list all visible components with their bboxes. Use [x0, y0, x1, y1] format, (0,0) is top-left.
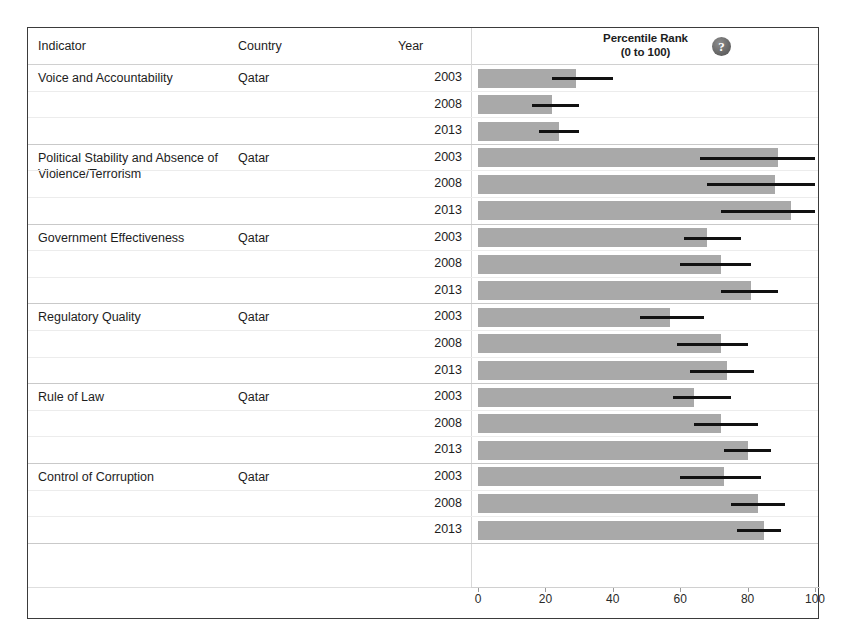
axis-tick-label: 20: [539, 592, 552, 606]
bar-cell: [471, 384, 820, 411]
bar-cell: [471, 145, 820, 172]
confidence-interval-bar: [731, 503, 785, 506]
bar-cell: [471, 251, 820, 278]
axis-tick-label: 100: [805, 592, 825, 606]
axis-tick-label: 80: [741, 592, 754, 606]
confidence-interval-bar: [680, 476, 761, 479]
confidence-interval-bar: [640, 316, 704, 319]
bar-cell: [471, 92, 820, 119]
bar-cell: [471, 304, 820, 331]
table-row: 2008: [28, 331, 818, 358]
year-label: 2008: [398, 256, 462, 270]
column-header-year: Year: [398, 39, 470, 53]
bar-cell: [471, 118, 820, 145]
chart-title-line-2: (0 to 100): [471, 45, 820, 59]
help-icon[interactable]: ?: [712, 37, 731, 56]
confidence-interval-bar: [680, 263, 751, 266]
group-separator: [28, 543, 818, 544]
confidence-interval-bar: [694, 423, 758, 426]
confidence-interval-bar: [721, 290, 778, 293]
indicator-group: Control of CorruptionQatar200320082013: [28, 464, 818, 544]
table-row: 2003: [28, 65, 818, 92]
percentile-bar[interactable]: [478, 281, 751, 300]
year-label: 2008: [398, 416, 462, 430]
bar-cell: [471, 65, 820, 92]
confidence-interval-bar: [707, 183, 815, 186]
indicator-group: Regulatory QualityQatar200320082013: [28, 304, 818, 384]
bar-cell: [471, 171, 820, 198]
chart-title-line-1: Percentile Rank: [471, 31, 820, 45]
table-row: 2008: [28, 411, 818, 438]
screenshot-root: Indicator Country Year Percentile Rank (…: [0, 0, 847, 644]
year-label: 2013: [398, 442, 462, 456]
indicator-group: Political Stability and Absence of Viole…: [28, 145, 818, 225]
table-row: 2013: [28, 118, 818, 145]
table-row: 2013: [28, 437, 818, 464]
table-row: 2008: [28, 491, 818, 518]
axis-line: [471, 587, 820, 588]
year-label: 2008: [398, 97, 462, 111]
year-label: 2013: [398, 123, 462, 137]
bar-cell: [471, 198, 820, 225]
percentile-bar[interactable]: [478, 441, 748, 460]
confidence-interval-bar: [737, 529, 781, 532]
table-row: 2013: [28, 517, 818, 544]
confidence-interval-bar: [700, 157, 815, 160]
confidence-interval-bar: [724, 449, 771, 452]
percentile-bar[interactable]: [478, 521, 764, 540]
bar-cell: [471, 225, 820, 252]
axis-tick-label: 0: [475, 592, 482, 606]
indicator-group: Rule of LawQatar200320082013: [28, 384, 818, 464]
confidence-interval-bar: [532, 104, 579, 107]
year-label: 2013: [398, 203, 462, 217]
confidence-interval-bar: [721, 210, 815, 213]
column-header-country: Country: [238, 39, 398, 53]
table-row: 2003: [28, 304, 818, 331]
table-row: 2013: [28, 358, 818, 385]
year-label: 2003: [398, 309, 462, 323]
confidence-interval-bar: [677, 343, 748, 346]
year-label: 2013: [398, 363, 462, 377]
table-row: 2003: [28, 384, 818, 411]
axis-tick-label: 60: [674, 592, 687, 606]
percentile-bar[interactable]: [478, 388, 694, 407]
year-label: 2003: [398, 469, 462, 483]
table-row: 2003: [28, 225, 818, 252]
table-body: Voice and AccountabilityQatar20032008201…: [28, 65, 818, 544]
bar-cell: [471, 411, 820, 438]
table-row: 2013: [28, 198, 818, 225]
bar-cell: [471, 491, 820, 518]
bar-cell: [471, 331, 820, 358]
table-row: 2008: [28, 251, 818, 278]
bar-cell: [471, 358, 820, 385]
confidence-interval-bar: [690, 370, 754, 373]
confidence-interval-bar: [539, 130, 579, 133]
confidence-interval-bar: [552, 77, 613, 80]
table-row: 2008: [28, 171, 818, 198]
year-label: 2003: [398, 70, 462, 84]
x-axis: 020406080100: [471, 587, 820, 617]
chart-frame: Indicator Country Year Percentile Rank (…: [27, 27, 819, 619]
percentile-bar[interactable]: [478, 228, 707, 247]
table-header: Indicator Country Year Percentile Rank (…: [28, 28, 818, 64]
confidence-interval-bar: [684, 237, 741, 240]
bar-cell: [471, 464, 820, 491]
indicator-group: Voice and AccountabilityQatar20032008201…: [28, 65, 818, 145]
year-label: 2013: [398, 522, 462, 536]
bar-cell: [471, 437, 820, 464]
year-label: 2008: [398, 336, 462, 350]
percentile-bar[interactable]: [478, 414, 721, 433]
table-row: 2013: [28, 278, 818, 305]
year-label: 2013: [398, 283, 462, 297]
bar-cell: [471, 517, 820, 544]
table-row: 2003: [28, 145, 818, 172]
table-row: 2008: [28, 92, 818, 119]
percentile-bar[interactable]: [478, 494, 758, 513]
year-label: 2003: [398, 230, 462, 244]
year-label: 2003: [398, 150, 462, 164]
table-row: 2003: [28, 464, 818, 491]
bar-cell: [471, 278, 820, 305]
column-header-indicator: Indicator: [38, 39, 238, 53]
year-label: 2003: [398, 389, 462, 403]
year-label: 2008: [398, 176, 462, 190]
